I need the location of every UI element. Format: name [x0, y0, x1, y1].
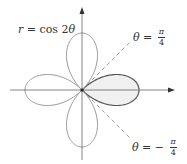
- equation-func: cos 2: [39, 23, 68, 36]
- lower-label-fraction: π4: [170, 138, 177, 157]
- lower-label-theta: θ: [132, 141, 139, 154]
- upper-label-fraction: π4: [158, 28, 165, 47]
- x-axis-arrow-icon: [168, 88, 175, 93]
- polar-rose-figure: r = cos 2θ θ = π4 θ = − π4: [0, 0, 187, 164]
- upper-line-label: θ = π4: [133, 28, 165, 47]
- lower-line-label: θ = − π4: [132, 138, 177, 157]
- equation-equals: =: [23, 23, 39, 36]
- equation-label: r = cos 2θ: [18, 24, 75, 35]
- upper-label-equals: =: [140, 31, 156, 44]
- lower-label-sign: −: [155, 141, 168, 154]
- lower-label-equals: =: [139, 141, 155, 154]
- upper-label-theta: θ: [133, 31, 140, 44]
- origin-point: [80, 88, 83, 91]
- y-axis-arrow-icon: [80, 7, 85, 14]
- equation-theta: θ: [68, 23, 75, 36]
